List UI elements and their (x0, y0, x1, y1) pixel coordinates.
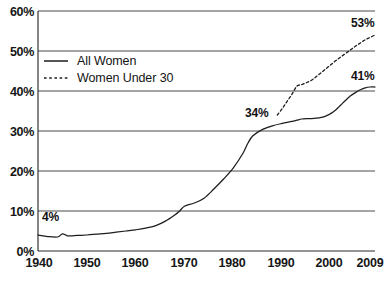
legend-item-women-under-30: Women Under 30 (44, 69, 194, 86)
series-all-women-line (38, 87, 375, 237)
x-axis-tick-1990: 1990 (264, 256, 298, 270)
chart-canvas (0, 0, 388, 286)
line-chart: 60% 50% 40% 30% 20% 10% 0% 1940 1950 196… (0, 0, 388, 286)
legend-label-all-women: All Women (77, 54, 136, 68)
y-axis-tick-60: 60% (0, 5, 34, 19)
legend-solid-line-icon (44, 56, 68, 66)
x-axis-tick-1940: 1940 (22, 256, 56, 270)
x-axis-tick-1980: 1980 (215, 256, 249, 270)
y-axis-tick-50: 50% (0, 45, 34, 59)
x-axis-tick-1970: 1970 (167, 256, 201, 270)
legend-item-all-women: All Women (44, 52, 194, 69)
y-axis-tick-40: 40% (0, 85, 34, 99)
x-axis-tick-2009: 2009 (353, 256, 387, 270)
x-axis-tick-1950: 1950 (70, 256, 104, 270)
gridlines (38, 11, 375, 211)
y-axis-tick-30: 30% (0, 125, 34, 139)
chart-legend: All Women Women Under 30 (44, 52, 194, 86)
data-label-41-percent: 41% (351, 69, 374, 83)
y-axis-tick-20: 20% (0, 165, 34, 179)
legend-dotted-line-icon (44, 73, 68, 83)
legend-label-women-under-30: Women Under 30 (77, 71, 173, 85)
x-axis-tick-2000: 2000 (312, 256, 346, 270)
data-label-34-percent: 34% (245, 106, 268, 120)
data-label-53-percent: 53% (351, 16, 374, 30)
x-axis-tick-1960: 1960 (118, 256, 152, 270)
y-axis-tick-10: 10% (0, 205, 34, 219)
data-label-4-percent: 4% (42, 210, 59, 224)
